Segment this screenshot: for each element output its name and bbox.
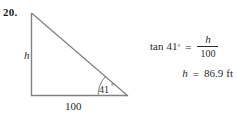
tan-angle-value: 41	[166, 40, 177, 53]
result-unit: ft	[226, 67, 233, 80]
result-variable: h	[182, 67, 188, 80]
fraction-h-over-100: h 100	[197, 34, 218, 59]
equation-line-1: tan 41 ° = h 100	[148, 34, 237, 59]
equals-sign-2: =	[193, 68, 199, 80]
fraction-denominator: 100	[197, 47, 218, 59]
tan-function-label: tan	[150, 40, 163, 53]
worked-example-figure: 20. h 100 41 ° tan 41 ° =	[0, 0, 237, 115]
fraction-numerator: h	[201, 34, 215, 46]
equation-line-2: h = 86.9 ft	[148, 67, 237, 80]
horizontal-leg-label: 100	[65, 100, 82, 112]
vertical-leg-label: h	[24, 49, 30, 61]
angle-value-label: 41	[99, 84, 109, 95]
equation-block: tan 41 ° = h 100 h = 86.9 ft	[148, 34, 237, 80]
triangle-diagram: h 100 41 °	[0, 0, 145, 115]
result-value: 86.9	[204, 67, 223, 80]
triangle-svg: h 100 41 °	[0, 0, 145, 115]
equals-sign-1: =	[185, 41, 191, 53]
angle-degree-icon: °	[111, 82, 114, 90]
